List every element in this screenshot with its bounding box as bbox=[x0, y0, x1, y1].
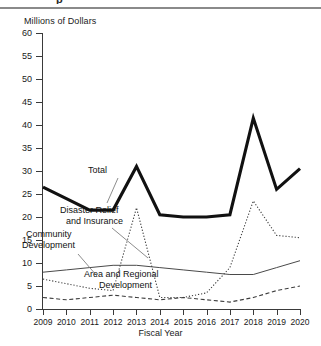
leader-total bbox=[107, 178, 118, 203]
annotation-disaster-line1: Disaster Relief bbox=[60, 205, 119, 216]
annotation-community-line1: Community bbox=[26, 229, 72, 240]
annotation-disaster-line2: and Insurance bbox=[66, 216, 123, 227]
annotation-total: Total bbox=[88, 165, 107, 176]
annotation-community-line2: Development bbox=[22, 240, 75, 251]
series-lines bbox=[0, 0, 321, 346]
series-line-area-and-regional-development bbox=[43, 286, 300, 302]
x-axis-title: Fiscal Year bbox=[0, 328, 321, 338]
series-line-community-development bbox=[43, 261, 300, 275]
chart-figure: p Millions of Dollars 051015202530354045… bbox=[0, 0, 321, 346]
annotation-area-line2: Development bbox=[99, 280, 152, 291]
series-line-total bbox=[43, 118, 300, 217]
annotation-area-line1: Area and Regional bbox=[84, 269, 159, 280]
leader-disaster bbox=[112, 228, 148, 258]
